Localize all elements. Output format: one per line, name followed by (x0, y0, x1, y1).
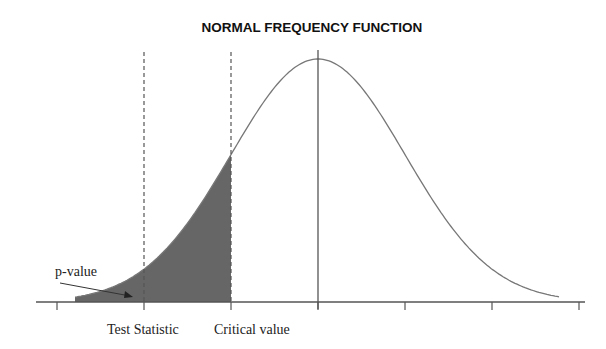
test-statistic-label: Test Statistic (107, 322, 179, 337)
p-value-label: p-value (55, 264, 97, 279)
p-value-shaded-area (75, 155, 231, 302)
normal-curve (75, 59, 559, 297)
normal-curve-plot: p-value Test Statistic Critical value (0, 0, 606, 349)
critical-value-label: Critical value (214, 322, 290, 337)
